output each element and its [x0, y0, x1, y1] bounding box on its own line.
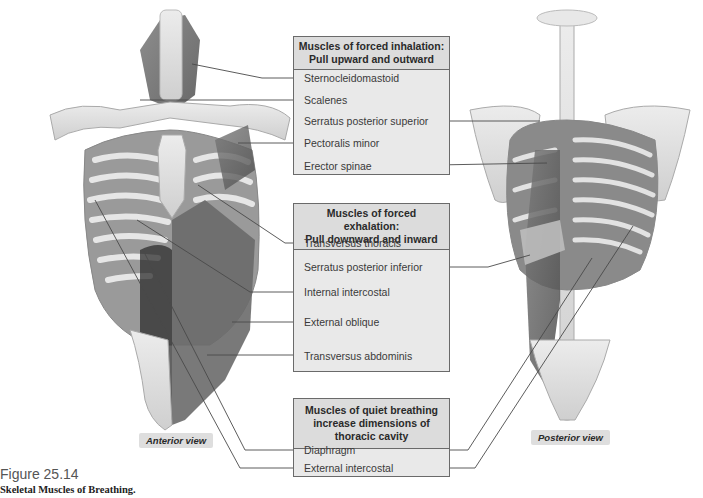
label-diaphragm: Diaphragm: [304, 444, 355, 456]
forced-inhalation-header: Muscles of forced inhalation: Pull upwar…: [294, 37, 449, 70]
figure-caption: Skeletal Muscles of Breathing.: [0, 484, 136, 495]
posterior-torso: [470, 10, 690, 420]
label-sternocleidomastoid: Sternocleidomastoid: [304, 72, 399, 84]
label-pectoralis-minor: Pectoralis minor: [304, 137, 379, 149]
label-transversus-abdominis: Transversus abdominis: [304, 350, 412, 362]
anterior-torso: [50, 10, 290, 430]
label-external-oblique: External oblique: [304, 316, 379, 328]
label-serratus-posterior-inferior: Serratus posterior inferior: [304, 261, 422, 273]
label-internal-intercostal: Internal intercostal: [304, 286, 390, 298]
header-line: Muscles of quiet breathing: [298, 404, 445, 417]
posterior-view-tag: Posterior view: [531, 430, 610, 445]
label-erector-spinae: Erector spinae: [304, 160, 372, 172]
header-line: Pull upward and outward: [298, 53, 445, 66]
header-line: Muscles of forced inhalation:: [298, 40, 445, 53]
header-line: thoracic cavity: [298, 430, 445, 443]
quiet-breathing-header: Muscles of quiet breathing increase dime…: [294, 399, 449, 449]
anterior-view-tag: Anterior view: [139, 433, 213, 448]
label-external-intercostal: External intercostal: [304, 462, 393, 474]
label-scalenes: Scalenes: [304, 94, 347, 106]
label-serratus-posterior-superior: Serratus posterior superior: [304, 115, 428, 127]
header-line: increase dimensions of: [298, 417, 445, 430]
figure-number: Figure 25.14: [0, 466, 79, 482]
label-transversus-thoracis: Transversus thoracis: [304, 237, 401, 249]
header-line: Muscles of forced exhalation:: [298, 207, 445, 233]
